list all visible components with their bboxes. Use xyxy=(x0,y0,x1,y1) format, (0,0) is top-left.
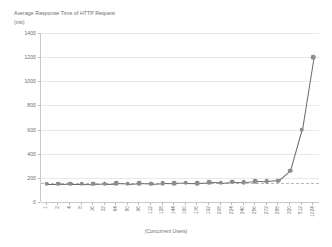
data-point-marker xyxy=(102,181,107,186)
x-tick-mark xyxy=(289,202,290,205)
x-tick-mark xyxy=(301,202,302,205)
x-tick-mark xyxy=(220,202,221,205)
gridline xyxy=(41,33,319,34)
x-tick-label: 2 xyxy=(55,206,60,209)
x-tick-mark xyxy=(208,202,209,205)
x-tick-mark xyxy=(150,202,151,205)
x-tick-mark xyxy=(231,202,232,205)
y-tick-label: 800 xyxy=(12,102,36,108)
x-tick-mark xyxy=(104,202,105,205)
x-tick-label: 256 xyxy=(252,206,257,214)
data-point-marker xyxy=(311,55,316,60)
x-tick-label: 272 xyxy=(264,206,269,214)
data-point-marker xyxy=(299,127,304,132)
line-segment xyxy=(290,130,303,171)
x-tick-mark xyxy=(254,202,255,205)
x-tick-label: 4 xyxy=(67,206,72,209)
y-tick-label: 400 xyxy=(12,151,36,157)
data-point-marker xyxy=(137,181,142,186)
data-point-marker xyxy=(288,168,293,173)
x-tick-mark xyxy=(69,202,70,205)
x-tick-label: 32 xyxy=(101,206,106,211)
x-tick-label: 240 xyxy=(240,206,245,214)
x-tick-label: 176 xyxy=(194,206,199,214)
x-tick-label: 1024 xyxy=(310,206,315,217)
data-point-marker xyxy=(195,181,200,186)
data-point-marker xyxy=(230,179,235,184)
x-tick-mark xyxy=(277,202,278,205)
gridline xyxy=(41,105,319,106)
data-point-marker xyxy=(276,178,281,183)
data-point-marker xyxy=(68,181,73,186)
chart-title: Average Response Time of HTTP Request xyxy=(14,10,115,18)
x-tick-label: 288 xyxy=(275,206,280,214)
gridline xyxy=(41,154,319,155)
y-tick-mark xyxy=(38,57,41,58)
y-tick-mark xyxy=(38,154,41,155)
x-tick-label: 160 xyxy=(182,206,187,214)
data-point-marker xyxy=(149,181,154,186)
data-point-marker xyxy=(126,182,131,187)
x-tick-label: 16 xyxy=(90,206,95,211)
x-tick-label: 208 xyxy=(217,206,222,214)
data-point-marker xyxy=(241,180,246,185)
x-tick-label: 8 xyxy=(78,206,83,209)
x-tick-label: 80 xyxy=(125,206,130,211)
data-point-marker xyxy=(172,181,177,186)
x-tick-label: 192 xyxy=(206,206,211,214)
data-point-marker xyxy=(79,181,84,186)
x-tick-label: 112 xyxy=(148,206,153,214)
y-tick-label: 600 xyxy=(12,127,36,133)
y-tick-label: 1400 xyxy=(12,30,36,36)
y-tick-mark xyxy=(38,105,41,106)
x-tick-mark xyxy=(173,202,174,205)
response-time-chart: Average Response Time of HTTP Request (m… xyxy=(0,0,332,247)
x-tick-label: 320 xyxy=(287,206,292,214)
gridline xyxy=(41,130,319,131)
data-point-marker xyxy=(56,182,61,187)
x-tick-mark xyxy=(81,202,82,205)
y-tick-mark xyxy=(38,178,41,179)
x-tick-mark xyxy=(162,202,163,205)
x-tick-mark xyxy=(46,202,47,205)
x-tick-mark xyxy=(57,202,58,205)
y-tick-label: 1200 xyxy=(12,54,36,60)
data-point-marker xyxy=(218,180,223,185)
x-tick-mark xyxy=(127,202,128,205)
x-tick-label: 128 xyxy=(159,206,164,214)
x-axis-title: (Concurrent Users) xyxy=(0,228,332,234)
y-tick-mark xyxy=(38,202,41,203)
plot-area xyxy=(40,33,319,202)
y-tick-mark xyxy=(38,130,41,131)
data-point-marker xyxy=(44,182,49,187)
x-tick-label: 224 xyxy=(229,206,234,214)
x-tick-mark xyxy=(266,202,267,205)
x-tick-mark xyxy=(312,202,313,205)
y-tick-label: 200 xyxy=(12,175,36,181)
gridline xyxy=(41,81,319,82)
x-tick-label: 512 xyxy=(298,206,303,214)
data-point-marker xyxy=(183,180,188,185)
x-tick-label: 1 xyxy=(43,206,48,209)
x-tick-mark xyxy=(196,202,197,205)
gridline xyxy=(41,57,319,58)
x-tick-label: 96 xyxy=(136,206,141,211)
y-tick-mark xyxy=(38,33,41,34)
x-tick-label: 144 xyxy=(171,206,176,214)
data-point-marker xyxy=(114,181,119,186)
y-tick-label: 1000 xyxy=(12,78,36,84)
data-point-marker xyxy=(91,182,96,187)
data-point-marker xyxy=(253,179,258,184)
y-tick-mark xyxy=(38,81,41,82)
x-tick-mark xyxy=(92,202,93,205)
x-tick-mark xyxy=(115,202,116,205)
x-tick-mark xyxy=(138,202,139,205)
data-point-marker xyxy=(265,179,270,184)
data-point-marker xyxy=(207,180,212,185)
x-tick-mark xyxy=(243,202,244,205)
line-segment xyxy=(302,57,315,130)
x-tick-label: 64 xyxy=(113,206,118,211)
data-point-marker xyxy=(160,181,165,186)
x-tick-mark xyxy=(185,202,186,205)
chart-title-unit: (ms) xyxy=(14,19,24,27)
